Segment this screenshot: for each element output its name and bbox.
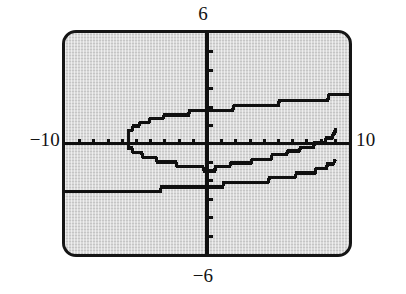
curve-lower-branch xyxy=(65,159,336,191)
calculator-screen xyxy=(62,30,352,257)
curve-upper-branch xyxy=(128,95,349,143)
graph-plot xyxy=(65,33,349,254)
x-min-label: −10 xyxy=(4,130,60,149)
y-max-label: 6 xyxy=(0,4,406,23)
y-min-label: −6 xyxy=(0,266,406,285)
calculator-graph-figure: 6 −10 10 −6 xyxy=(0,0,406,294)
x-max-label: 10 xyxy=(356,130,404,149)
curve-lower-mid-branch xyxy=(128,128,335,171)
axes-group xyxy=(65,33,349,254)
